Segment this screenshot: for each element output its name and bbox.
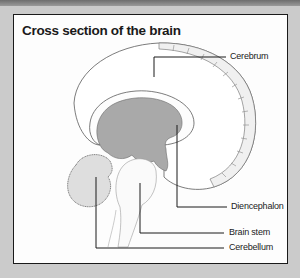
label-cerebrum: Cerebrum (230, 51, 268, 61)
top-strip (0, 0, 300, 6)
label-brain-stem: Brain stem (229, 227, 270, 237)
brain-stem-shape (116, 159, 156, 247)
diagram-panel: Cross section of the brain Cerebrum (13, 14, 288, 264)
label-cerebellum: Cerebellum (229, 242, 273, 252)
label-diencephalon: Diencephalon (231, 201, 284, 211)
cerebellum-shape (68, 155, 113, 207)
